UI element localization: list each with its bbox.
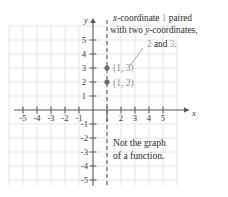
point-label-upper: (1, 3)	[113, 62, 134, 74]
note-line-2: of a function.	[113, 150, 164, 161]
callout-line3-end: .	[174, 39, 176, 49]
callout-annotation: x-coordinate 1 paired with two y-coordin…	[110, 13, 198, 49]
y-tick-label: 1	[82, 91, 86, 101]
y-axis	[90, 18, 95, 186]
y-tick-label: -1	[81, 119, 88, 129]
x-tick-label: -4	[33, 113, 41, 123]
y-tick-label: 4	[82, 49, 87, 59]
x-tick-label: 5	[161, 113, 165, 123]
y-tick-label: 3	[82, 63, 86, 73]
callout-line-3: 2 and 3.	[147, 39, 177, 49]
x-tick-label: 4	[147, 113, 152, 123]
y-tick-label: -2	[81, 133, 88, 143]
note-line-1: Not the graph	[113, 137, 166, 148]
x-tick-label: -3	[47, 113, 54, 123]
x-axis-label: x	[191, 108, 196, 118]
data-point-1-2	[104, 79, 109, 84]
coordinate-plane-figure: -5 -4 -3 -2 -1 1 2 3 4 5 5 4 3 2 1 -1 -2…	[0, 0, 228, 197]
x-tick-label: -2	[61, 113, 68, 123]
callout-line2-post: -coordinates,	[149, 25, 197, 35]
x-tick-label: 3	[133, 113, 137, 123]
x-tick-label: 2	[119, 113, 123, 123]
y-tick-label: -5	[81, 175, 88, 185]
y-tick-label: 2	[82, 77, 86, 87]
callout-line-1: x-coordinate 1 paired	[112, 13, 192, 23]
point-label-lower: (1, 2)	[113, 77, 134, 89]
callout-line-2: with two y-coordinates,	[110, 25, 198, 35]
callout-line1-mid: -coordinate	[117, 13, 162, 23]
callout-line3-mid: and	[152, 39, 170, 49]
graph-svg: -5 -4 -3 -2 -1 1 2 3 4 5 5 4 3 2 1 -1 -2…	[0, 0, 228, 197]
y-tick-label: 5	[82, 35, 86, 45]
y-axis-label: y	[83, 15, 88, 25]
y-tick-label: -3	[81, 147, 88, 157]
x-tick-labels: -5 -4 -3 -2 -1 1 2 3 4 5	[19, 113, 165, 123]
callout-line2-pre: with two	[110, 25, 145, 35]
x-tick-label: 1	[105, 113, 109, 123]
x-tick-label: -5	[19, 113, 26, 123]
callout-line1-post: paired	[166, 13, 192, 23]
y-tick-label: -4	[81, 161, 89, 171]
data-point-1-3	[104, 65, 109, 70]
